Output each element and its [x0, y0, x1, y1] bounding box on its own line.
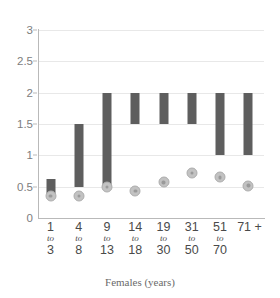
x-tick-label: 71 +	[237, 221, 262, 234]
data-point-marker	[158, 177, 169, 188]
plot-area	[38, 30, 264, 218]
x-tick-label: 1 to 3	[47, 221, 54, 257]
x-tick-bottom: 3	[47, 244, 54, 257]
range-bar	[159, 93, 168, 124]
data-point-marker	[45, 191, 56, 202]
x-tick-top: 4	[75, 221, 82, 234]
x-tick-bottom: 70	[213, 244, 227, 257]
range-bar	[131, 93, 140, 124]
x-tick-top: 71 +	[237, 221, 262, 234]
x-tick-top: 9	[100, 221, 114, 234]
gridline-2	[38, 93, 264, 94]
range-bar	[103, 93, 112, 187]
range-bar	[74, 124, 83, 187]
gridline-0_5	[38, 187, 264, 188]
data-point-marker	[130, 186, 141, 197]
x-tick-label: 14 to 18	[128, 221, 142, 257]
x-tick-label: 19 to 30	[157, 221, 171, 257]
data-point-marker	[243, 180, 254, 191]
y-tick-mark	[33, 186, 37, 187]
x-tick-label: 31 to 50	[185, 221, 199, 257]
x-tick-top: 1	[47, 221, 54, 234]
y-tick-label: 2.5	[17, 55, 33, 67]
x-tick-bottom: 8	[75, 244, 82, 257]
gridline-3	[38, 30, 264, 31]
x-tick-top: 51	[213, 221, 227, 234]
y-tick-mark	[33, 61, 37, 62]
data-point-marker	[73, 191, 84, 202]
y-axis-line	[38, 29, 39, 219]
range-bar	[216, 93, 225, 156]
y-tick-label: 0.5	[17, 181, 33, 193]
y-axis-ticks: 3 2.5 2 1.5 1 0.5 0	[0, 30, 33, 218]
chart-container: 3 2.5 2 1.5 1 0.5 0 1 to 3 4 to 8 9 to 1…	[0, 0, 280, 298]
x-tick-label: 51 to 70	[213, 221, 227, 257]
x-tick-bottom: 30	[157, 244, 171, 257]
range-bar	[187, 93, 196, 124]
range-bar	[244, 93, 253, 156]
x-axis-title: Females (years)	[0, 276, 280, 288]
x-tick-label: 4 to 8	[75, 221, 82, 257]
x-tick-bottom: 18	[128, 244, 142, 257]
y-tick-mark	[33, 124, 37, 125]
y-tick-mark	[33, 92, 37, 93]
y-tick-mark	[33, 30, 37, 31]
x-tick-top: 14	[128, 221, 142, 234]
x-tick-bottom: 50	[185, 244, 199, 257]
y-tick-mark	[33, 155, 37, 156]
x-axis-ticks: 1 to 3 4 to 8 9 to 13 14 to 18 19 to 30 …	[38, 221, 264, 269]
data-point-marker	[102, 181, 113, 192]
x-tick-top: 31	[185, 221, 199, 234]
data-point-marker	[215, 172, 226, 183]
gridline-1_5	[38, 124, 264, 125]
x-tick-label: 9 to 13	[100, 221, 114, 257]
x-tick-top: 19	[157, 221, 171, 234]
data-point-marker	[186, 167, 197, 178]
gridline-2_5	[38, 61, 264, 62]
x-axis-line	[38, 218, 265, 219]
y-tick-label: 1.5	[17, 118, 33, 130]
x-tick-bottom: 13	[100, 244, 114, 257]
gridline-1	[38, 155, 264, 156]
y-tick-label: 0	[27, 212, 33, 224]
